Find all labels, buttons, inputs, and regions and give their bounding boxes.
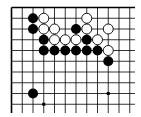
white-stone[interactable] (50, 24, 60, 34)
go-board[interactable] (0, 0, 141, 117)
black-stone[interactable] (82, 46, 92, 56)
white-stone[interactable] (82, 24, 92, 34)
star-point (42, 103, 45, 106)
black-stone[interactable] (60, 46, 70, 56)
black-stone[interactable] (71, 46, 81, 56)
black-stone[interactable] (103, 56, 113, 66)
white-stone[interactable] (82, 13, 92, 23)
white-stone[interactable] (39, 13, 49, 23)
black-stone[interactable] (28, 24, 38, 34)
black-stone[interactable] (71, 24, 81, 34)
black-stone[interactable] (82, 35, 92, 45)
white-stone[interactable] (39, 24, 49, 34)
white-stone[interactable] (103, 24, 113, 34)
black-stone[interactable] (50, 46, 60, 56)
white-stone[interactable] (93, 35, 103, 45)
white-stone[interactable] (50, 35, 60, 45)
star-point (107, 92, 110, 95)
white-stone[interactable] (103, 46, 113, 56)
black-stone[interactable] (39, 46, 49, 56)
black-stone[interactable] (93, 46, 103, 56)
white-stone[interactable] (71, 35, 81, 45)
black-stone[interactable] (28, 13, 38, 23)
white-stone[interactable] (60, 35, 70, 45)
black-stone[interactable] (28, 89, 38, 99)
stones-layer (28, 13, 113, 98)
black-stone[interactable] (39, 35, 49, 45)
